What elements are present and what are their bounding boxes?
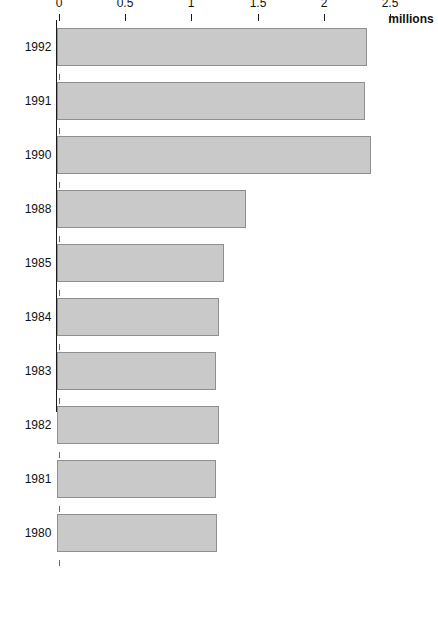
category-axis-tick [59,236,60,242]
value-axis-tick [125,14,126,21]
category-axis-label: 1983 [18,364,58,378]
value-axis-tick-label: 0.5 [110,0,140,10]
category-axis-label: 1988 [18,202,58,216]
bar [57,352,216,390]
value-axis-tick-label: 2 [309,0,339,10]
bar [57,28,367,66]
bar [57,82,365,120]
value-axis-title: millions [376,12,438,26]
category-axis-label: 1981 [18,472,58,486]
category-axis-label: 1980 [18,526,58,540]
bar [57,460,216,498]
value-axis-tick-label: 2.5 [375,0,405,10]
category-axis-tick [59,506,60,512]
bar [57,190,246,228]
category-axis-tick [59,128,60,134]
category-axis-label: 1985 [18,256,58,270]
category-axis-tick [59,344,60,350]
value-axis-tick [258,14,259,21]
bar [57,298,219,336]
category-axis-label: 1982 [18,418,58,432]
category-axis-tick [59,74,60,80]
value-axis-tick [191,14,192,21]
value-axis-tick [324,14,325,21]
bar [57,136,371,174]
category-axis-tick [59,290,60,296]
category-axis-tick [59,560,60,566]
category-axis-label: 1990 [18,148,58,162]
category-axis-label: 1992 [18,40,58,54]
bar [57,406,219,444]
value-axis-tick-label: 0 [44,0,74,10]
category-axis-tick [59,398,60,404]
category-axis-tick [59,452,60,458]
category-axis-label: 1991 [18,94,58,108]
value-axis-tick-label: 1 [176,0,206,10]
category-axis-tick [59,182,60,188]
bar [57,514,217,552]
value-axis-tick-label: 1.5 [243,0,273,10]
value-axis-tick [390,14,391,21]
value-axis-tick [59,14,60,21]
category-axis-label: 1984 [18,310,58,324]
bar [57,244,224,282]
